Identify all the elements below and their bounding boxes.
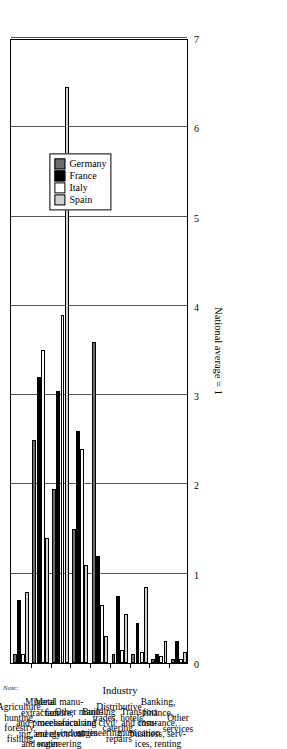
- legend-swatch-spain: [54, 195, 65, 206]
- plot-area: [10, 39, 188, 664]
- legend-item-italy: Italy: [54, 183, 106, 194]
- legend-label-italy: Italy: [69, 183, 87, 194]
- bar-spain-cat7: [164, 641, 168, 663]
- tick-label-5: 5: [190, 212, 204, 223]
- category-tick-6: [130, 663, 131, 668]
- tick-label-1: 1: [190, 569, 204, 580]
- bar-spain-cat4: [104, 636, 108, 663]
- bar-spain-cat1: [45, 538, 49, 663]
- bar-spain-cat6: [144, 587, 148, 663]
- category-axis-title: Industry: [103, 685, 138, 696]
- tick-label-0: 0: [190, 659, 204, 670]
- legend-item-france: France: [54, 171, 106, 182]
- category-tick-2: [51, 663, 52, 668]
- category-tick-4: [90, 663, 91, 668]
- gridline-6: [11, 126, 187, 127]
- legend-label-germany: Germany: [69, 159, 106, 170]
- legend-item-spain: Spain: [54, 195, 106, 206]
- category-tick-8: [169, 663, 170, 668]
- bar-spain-cat3: [84, 565, 88, 663]
- legend-swatch-france: [54, 171, 65, 182]
- bar-spain-cat0: [25, 592, 29, 663]
- tick-label-6: 6: [190, 123, 204, 134]
- tick-label-4: 4: [190, 301, 204, 312]
- gridline-5: [11, 216, 187, 217]
- legend-item-germany: Germany: [54, 159, 106, 170]
- bar-spain-cat5: [124, 614, 128, 663]
- legend-label-spain: Spain: [69, 195, 92, 206]
- category-tick-1: [31, 663, 32, 668]
- category-label-8: Other services: [145, 713, 211, 734]
- category-tick-3: [70, 663, 71, 668]
- legend-swatch-germany: [54, 159, 65, 170]
- footnote: Note:: [3, 684, 19, 692]
- legend-swatch-italy: [54, 183, 65, 194]
- gridline-4: [11, 305, 187, 306]
- tick-label-7: 7: [190, 34, 204, 45]
- category-tick-5: [110, 663, 111, 668]
- gridline-7: [11, 37, 187, 38]
- legend-label-france: France: [69, 171, 96, 182]
- tick-label-3: 3: [190, 391, 204, 402]
- legend: GermanyFranceItalySpain: [49, 154, 111, 211]
- category-tick-7: [149, 663, 150, 668]
- tick-label-2: 2: [190, 480, 204, 491]
- bar-spain-cat8: [183, 652, 187, 663]
- value-axis-title: National average = 1: [213, 308, 224, 396]
